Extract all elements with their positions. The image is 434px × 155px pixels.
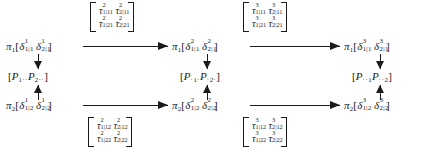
arrow-head — [158, 42, 168, 50]
arrow-head — [34, 85, 42, 93]
arrow-head — [34, 61, 42, 69]
arrow-head — [203, 61, 211, 69]
matrix-cell: τ32|22 — [268, 134, 277, 144]
arrow-row1-col1-col2 — [83, 42, 168, 51]
arrow-row2-col2-col3 — [250, 101, 340, 110]
arrow-head — [158, 101, 168, 109]
arrow-col1-down — [34, 54, 43, 69]
node-pi1-delta2: π1[δ21|1δ22|1] — [172, 41, 218, 54]
arrow-head — [376, 85, 384, 93]
node-pi2-delta1: π2[δ11|2δ12|2] — [6, 100, 52, 113]
arrow-col3-down — [376, 54, 385, 69]
matrix-cells: τ21|12 τ22|12 τ21|22 τ22|22 — [94, 117, 126, 147]
p-bracket-col1: [P1··P2··] — [8, 71, 48, 84]
node-pi2-delta2: π2[δ21|2δ22|2] — [172, 100, 218, 113]
matrix-cells: τ31|11 τ32|11 τ31|21 τ32|21 — [249, 2, 281, 32]
matrix-row: τ31|22 τ32|22 — [252, 132, 278, 145]
p-bracket-col3: [P··1P··2] — [352, 71, 392, 84]
matrix-cell: τ31|22 — [252, 134, 261, 144]
tau-matrix-bottom-left: τ21|12 τ22|12 τ21|22 τ22|22 — [88, 117, 132, 147]
p-bracket-col2: [P·1·P·2·] — [180, 71, 220, 84]
matrix-cell: τ21|22 — [97, 134, 106, 144]
arrow-head — [203, 85, 211, 93]
matrix-cell: τ22|21 — [115, 19, 124, 29]
matrix-row: τ31|21 τ32|21 — [252, 17, 278, 30]
matrix-cells: τ31|12 τ32|12 τ31|22 τ32|22 — [249, 117, 281, 147]
matrix-cell: τ22|22 — [113, 134, 122, 144]
arrow-shaft — [83, 46, 168, 47]
matrix-cell: τ32|21 — [268, 19, 277, 29]
node-pi2-delta3: π2[δ31|2δ32|2] — [344, 100, 390, 113]
arrow-shaft — [250, 46, 340, 47]
tau-matrix-top-right: τ31|11 τ32|11 τ31|21 τ32|21 — [243, 2, 287, 32]
matrix-row: τ21|21 τ22|21 — [99, 17, 125, 30]
matrix-row: τ21|22 τ22|22 — [97, 132, 123, 145]
arrow-col2-down — [203, 54, 212, 69]
matrix-cell: τ21|21 — [99, 19, 108, 29]
tau-matrix-bottom-right: τ31|12 τ32|12 τ31|22 τ32|22 — [243, 117, 287, 147]
commutative-diagram: τ21|11 τ22|11 τ21|21 τ22|21 τ31|11 τ32|1… — [0, 0, 434, 155]
tau-matrix-top-left: τ21|11 τ22|11 τ21|21 τ22|21 — [90, 2, 134, 32]
matrix-cell: τ31|21 — [252, 19, 261, 29]
node-pi1-delta3: π1[δ31|1δ32|1] — [344, 41, 390, 54]
arrow-head — [376, 61, 384, 69]
arrow-shaft — [250, 105, 340, 106]
arrow-row2-col1-col2 — [83, 101, 168, 110]
matrix-cells: τ21|11 τ22|11 τ21|21 τ22|21 — [96, 2, 128, 32]
arrow-head — [330, 101, 340, 109]
arrow-shaft — [83, 105, 168, 106]
node-pi1-delta1: π1[δ11|1δ12|1] — [6, 41, 52, 54]
arrow-row1-col2-col3 — [250, 42, 340, 51]
arrow-head — [330, 42, 340, 50]
